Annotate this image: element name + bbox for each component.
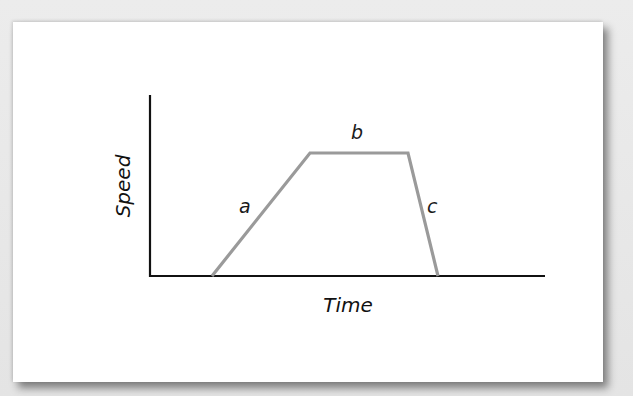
y-axis-label: Speed	[111, 154, 135, 217]
segment-label-b: b	[351, 121, 363, 143]
x-axis-label: Time	[323, 293, 373, 317]
segment-label-c: c	[427, 195, 438, 217]
page: a b c Speed Time	[0, 0, 633, 396]
speed-time-diagram: a b c Speed Time	[0, 0, 633, 396]
segment-label-a: a	[239, 195, 251, 217]
